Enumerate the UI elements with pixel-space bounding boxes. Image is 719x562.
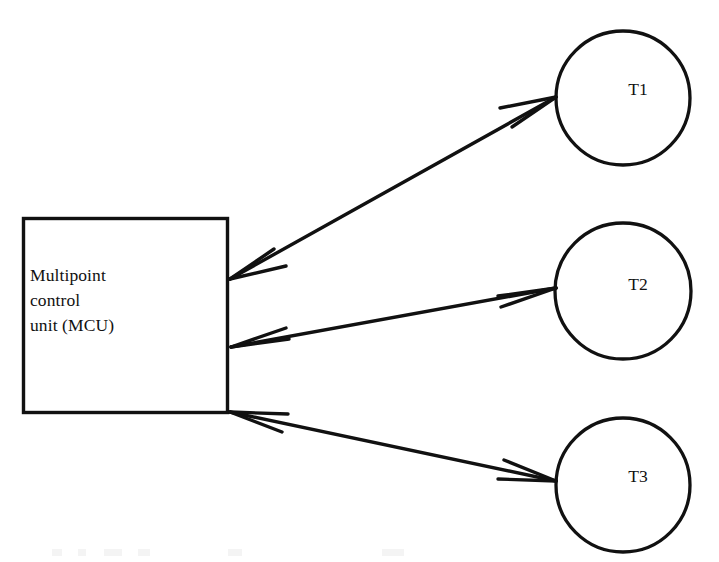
node-t2-label: T2 [608, 275, 668, 294]
node-mcu-label: Multipoint control unit (MCU) [30, 263, 210, 338]
edge-mcu-t3[interactable] [230, 412, 556, 481]
edge-mcu-t2[interactable] [231, 288, 556, 347]
node-t1-label: T1 [608, 80, 668, 99]
edge-mcu-t1[interactable] [230, 97, 556, 279]
scan-artifact [52, 549, 432, 556]
node-t3-label: T3 [608, 467, 668, 486]
diagram-canvas: Multipoint control unit (MCU) T1 T2 T3 [0, 0, 719, 562]
